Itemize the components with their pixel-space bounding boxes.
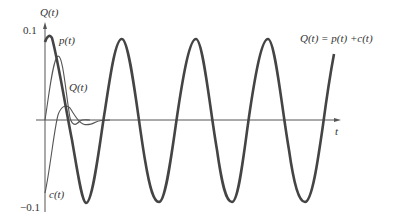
label-c: c(t) <box>49 189 64 200</box>
label-q: Q(t) <box>69 82 87 93</box>
x-axis-label: t <box>335 126 338 137</box>
y-axis-label: Q(t) <box>40 7 58 18</box>
equation-label: Q(t) = p(t) +c(t) <box>300 33 373 44</box>
x-axis-arrow-icon <box>334 118 341 122</box>
y-axis-arrow-icon <box>43 22 47 29</box>
y-tick-bottom: −0.1 <box>20 202 40 213</box>
label-p: p(t) <box>59 35 75 46</box>
y-tick-top: 0.1 <box>23 25 37 36</box>
